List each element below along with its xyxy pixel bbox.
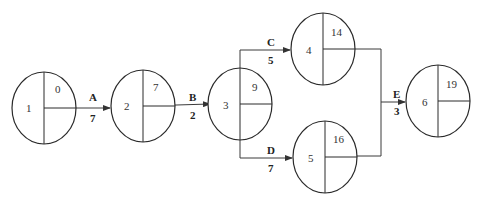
node-id: 3: [223, 99, 229, 111]
node-id: 1: [26, 102, 32, 114]
activity-a-label: A: [89, 91, 97, 103]
node-id: 4: [306, 44, 312, 56]
node-earliest-time: 19: [446, 78, 458, 90]
node-earliest-time: 0: [55, 83, 61, 95]
node-earliest-time: 9: [252, 81, 258, 93]
activity-a-duration: 7: [90, 112, 96, 124]
node-3: 3 9: [208, 68, 272, 140]
activity-e-label: E: [393, 88, 400, 100]
activity-b-duration: 2: [190, 109, 196, 121]
activity-d-duration: 7: [268, 162, 274, 174]
node-2: 2 7: [111, 70, 175, 142]
node-1: 1 0: [12, 72, 76, 144]
node-earliest-time: 7: [153, 81, 159, 93]
node-5: 5 16: [293, 121, 357, 193]
edge-d: [240, 140, 292, 158]
activity-c-label: C: [267, 36, 275, 48]
activity-c-duration: 5: [268, 54, 274, 66]
node-4: 4 14: [291, 13, 355, 85]
node-id: 2: [124, 100, 130, 112]
activity-b-label: B: [189, 91, 197, 103]
edge-c: [240, 50, 290, 69]
node-6: 6 19: [406, 65, 470, 137]
node-earliest-time: 14: [331, 26, 343, 38]
activity-e-duration: 3: [394, 105, 400, 117]
node-id: 6: [422, 96, 428, 108]
network-diagram: 1 0 2 7 3 9 4 14 5 16 6 19: [0, 0, 486, 209]
node-earliest-time: 16: [333, 133, 345, 145]
activity-d-label: D: [267, 144, 275, 156]
node-id: 5: [308, 152, 314, 164]
